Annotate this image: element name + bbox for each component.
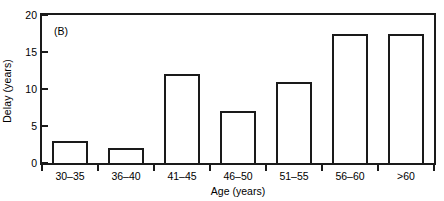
y-axis-tick-label: 10 — [25, 84, 37, 95]
y-axis-tick-label-group: 05101520 — [16, 14, 37, 164]
y-axis-tick-mark — [42, 125, 48, 127]
x-axis-tick-label: 30–35 — [55, 170, 84, 182]
bar — [164, 74, 200, 163]
x-axis-tick-label: 56–60 — [335, 170, 364, 182]
bar — [52, 141, 88, 163]
x-axis-tick-label: 51–55 — [279, 170, 308, 182]
bar — [332, 34, 368, 164]
plot-area: (B) — [42, 15, 434, 163]
x-axis-tick-label: 46–50 — [223, 170, 252, 182]
y-axis-title-text: Delay (years) — [1, 59, 13, 123]
y-axis-tick-mark — [42, 88, 48, 90]
x-axis-tick-label: 41–45 — [167, 170, 196, 182]
y-axis-tick-label: 5 — [31, 121, 37, 132]
x-axis-tick-label: 36–40 — [111, 170, 140, 182]
x-axis-title: Age (years) — [40, 185, 436, 197]
y-axis-tick-label: 20 — [25, 10, 37, 21]
x-axis-tick-label: >60 — [397, 170, 415, 182]
y-axis-tick-mark — [42, 14, 48, 16]
y-axis-tick-label: 15 — [25, 47, 37, 58]
bar-chart-figure: Delay (years) 05101520 (B) 30–3536–4041–… — [0, 0, 444, 201]
bar — [276, 82, 312, 163]
y-axis-tick-label: 0 — [31, 158, 37, 169]
x-axis-tick-label-group: 30–3536–4041–4546–5051–5556–60>60 — [40, 170, 436, 184]
bar-series — [42, 15, 434, 163]
bar — [220, 111, 256, 163]
bar — [388, 34, 424, 164]
plot-frame: (B) — [40, 13, 436, 165]
y-axis-tick-mark — [42, 51, 48, 53]
bar — [108, 148, 144, 163]
y-axis-title: Delay (years) — [0, 36, 14, 146]
